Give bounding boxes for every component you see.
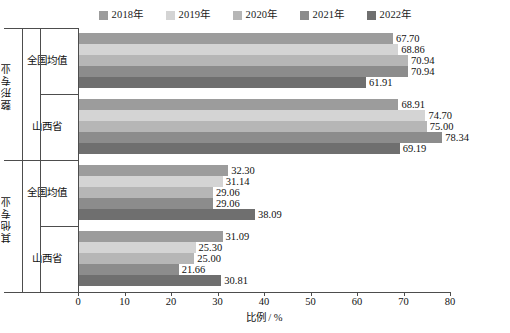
bar-row: 67.70 [78, 33, 450, 44]
bar-value-label: 74.70 [428, 110, 452, 121]
bar-group-3: 32.30 31.14 29.06 29.06 38.09 [78, 160, 450, 226]
bar-group-4: 31.09 25.30 25.00 21.66 30.81 [78, 226, 450, 292]
bar-row: 78.34 [78, 132, 450, 143]
bar-value-label: 68.86 [401, 44, 425, 55]
bar-row: 70.94 [78, 55, 450, 66]
legend-item-2020: 2020年 [233, 10, 278, 21]
bar-row: 74.70 [78, 110, 450, 121]
axis-separator-outer-3 [4, 292, 78, 293]
legend-label-2021: 2021年 [313, 10, 345, 21]
bar-2019 [78, 176, 223, 187]
bar-2019 [78, 242, 196, 253]
bar-2022 [78, 77, 366, 88]
x-tick-label-80: 80 [445, 297, 456, 308]
legend-swatch-2021 [300, 11, 309, 20]
y-axis-line [78, 28, 79, 292]
bar-2020 [78, 187, 213, 198]
bar-row: 61.91 [78, 77, 450, 88]
bar-value-label: 68.91 [401, 99, 425, 110]
bar-2021 [78, 198, 213, 209]
bar-value-label: 25.00 [197, 253, 221, 264]
axis-bracket-outer-line [22, 28, 23, 292]
bar-value-label: 31.09 [226, 231, 250, 242]
bar-group-2: 68.91 74.70 75.00 78.34 69.19 [78, 94, 450, 160]
bar-2020 [78, 121, 427, 132]
bar-2022 [78, 143, 400, 154]
bar-2018 [78, 99, 398, 110]
bar-value-label: 21.66 [182, 264, 206, 275]
bar-2018 [78, 165, 228, 176]
legend-item-2022: 2022年 [367, 10, 412, 21]
bar-row: 70.94 [78, 66, 450, 77]
bar-row: 31.14 [78, 176, 450, 187]
axis-separator-outer-1 [4, 28, 78, 29]
axis-separator-inner-2 [40, 226, 78, 227]
legend-item-2018: 2018年 [99, 10, 144, 21]
x-tick-label-10: 10 [119, 297, 130, 308]
legend-swatch-2018 [99, 11, 108, 20]
bar-value-label: 67.70 [396, 33, 420, 44]
legend-item-2021: 2021年 [300, 10, 345, 21]
bar-2020 [78, 253, 194, 264]
axis-bracket-inner-line [40, 28, 41, 292]
bar-value-label: 70.94 [411, 66, 435, 77]
plot-area: 67.70 68.86 70.94 70.94 61.91 [78, 28, 450, 292]
bar-row: 31.09 [78, 231, 450, 242]
bar-2019 [78, 44, 398, 55]
bar-row: 38.09 [78, 209, 450, 220]
bar-value-label: 30.81 [224, 275, 248, 286]
legend-label-2020: 2020年 [246, 10, 278, 21]
bar-2018 [78, 33, 393, 44]
bar-value-label: 29.06 [216, 198, 240, 209]
bar-group-1: 67.70 68.86 70.94 70.94 61.91 [78, 28, 450, 94]
legend-swatch-2020 [233, 11, 242, 20]
bar-value-label: 25.30 [199, 242, 223, 253]
x-tick-label-70: 70 [398, 297, 409, 308]
bar-value-label: 31.14 [226, 176, 250, 187]
bar-row: 32.30 [78, 165, 450, 176]
legend-label-2018: 2018年 [112, 10, 144, 21]
axis-separator-inner-1 [40, 94, 78, 95]
legend-swatch-2019 [166, 11, 175, 20]
bar-value-label: 78.34 [445, 132, 469, 143]
bar-value-label: 69.19 [403, 143, 427, 154]
bar-row: 68.91 [78, 99, 450, 110]
x-tick-label-60: 60 [352, 297, 363, 308]
bar-2022 [78, 209, 255, 220]
bar-value-label: 61.91 [369, 77, 393, 88]
x-tick-label-0: 0 [75, 297, 80, 308]
y-label-group2-outer: 其他专业 [2, 195, 20, 243]
chart-legend: 2018年 2019年 2020年 2021年 2022年 [0, 10, 510, 21]
bar-2021 [78, 264, 179, 275]
bar-row: 21.66 [78, 264, 450, 275]
legend-label-2019: 2019年 [179, 10, 211, 21]
bar-value-label: 29.06 [216, 187, 240, 198]
bar-2022 [78, 275, 221, 286]
bar-2021 [78, 66, 408, 77]
legend-item-2019: 2019年 [166, 10, 211, 21]
y-label-group1-outer: 整形专业 [2, 62, 20, 110]
bar-value-label: 70.94 [411, 55, 435, 66]
x-tick-label-20: 20 [166, 297, 177, 308]
bar-value-label: 38.09 [258, 209, 282, 220]
bar-value-label: 75.00 [430, 121, 454, 132]
x-tick-label-40: 40 [259, 297, 270, 308]
legend-swatch-2022 [367, 11, 376, 20]
bar-row: 29.06 [78, 187, 450, 198]
bar-chart: 2018年 2019年 2020年 2021年 2022年 全国均值 山西省 全… [0, 0, 510, 333]
bar-row: 25.30 [78, 242, 450, 253]
y-label-group1-national: 全国均值 [16, 56, 78, 67]
bar-row: 25.00 [78, 253, 450, 264]
bar-row: 69.19 [78, 143, 450, 154]
legend-label-2022: 2022年 [380, 10, 412, 21]
y-label-group2-national: 全国均值 [16, 188, 78, 199]
bar-row: 75.00 [78, 121, 450, 132]
x-tick-label-50: 50 [305, 297, 316, 308]
bar-row: 30.81 [78, 275, 450, 286]
y-label-group2-shanxi: 山西省 [16, 254, 78, 265]
x-tick-label-30: 30 [212, 297, 223, 308]
bar-2020 [78, 55, 408, 66]
y-label-group1-shanxi: 山西省 [16, 122, 78, 133]
bar-row: 68.86 [78, 44, 450, 55]
axis-separator-outer-2 [4, 160, 78, 161]
